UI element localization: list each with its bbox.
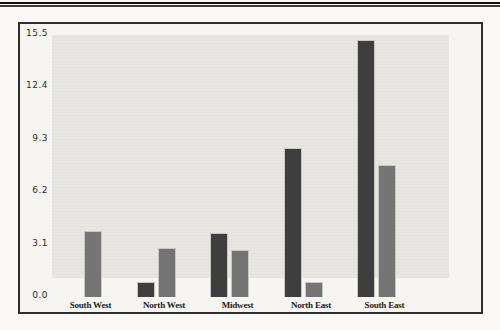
y-tick-label-3-1: 3.1 (22, 238, 48, 248)
bar-series-1-south-east (357, 40, 375, 297)
bar-series-1-north-east (284, 148, 302, 297)
y-tick-label-12-4: 12.4 (22, 80, 48, 90)
bar-series-2-south-west (84, 231, 102, 297)
bar-series-2-south-east (378, 165, 396, 297)
bar-series-2-midwest (231, 250, 249, 297)
bar-chart: 0.03.16.29.312.415.5 South WestNorth Wes… (18, 22, 483, 314)
bar-series-1-midwest (210, 233, 228, 297)
y-tick-label-9-3: 9.3 (22, 133, 48, 143)
y-tick-label-15-5: 15.5 (22, 28, 48, 38)
x-axis-label-north-east: North East (271, 300, 351, 311)
page-top-rule (0, 2, 500, 7)
x-axis-label-north-west: North West (124, 300, 204, 311)
y-tick-label-6-2: 6.2 (22, 185, 48, 195)
y-tick-label-0-0: 0.0 (22, 290, 48, 300)
bar-series-2-north-west (158, 248, 176, 297)
scanned-page: 0.03.16.29.312.415.5 South WestNorth Wes… (0, 0, 500, 330)
x-axis-label-midwest: Midwest (198, 300, 278, 311)
bar-series-2-north-east (305, 282, 323, 297)
x-axis-label-south-east: South East (345, 300, 425, 311)
x-axis-label-south-west: South West (51, 300, 131, 311)
bar-series-1-north-west (137, 282, 155, 297)
